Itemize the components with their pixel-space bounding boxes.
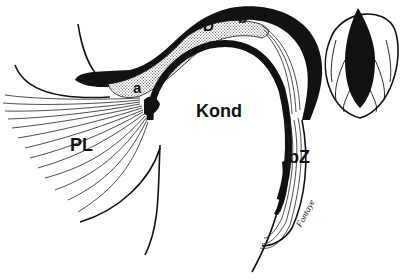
label-posterior-ligament-PL: PL [70,136,93,154]
label-b: b [238,10,247,25]
external-ear-structure [325,8,398,118]
label-disc-D: D [203,18,214,33]
condyle-inner-shadow [144,97,160,116]
label-a: a [133,80,141,95]
label-bilaminar-zone-bZ: bZ [288,148,310,166]
label-condyle-kond: Kond [196,102,242,120]
tmj-diagram [0,0,403,280]
condyle [150,43,289,200]
